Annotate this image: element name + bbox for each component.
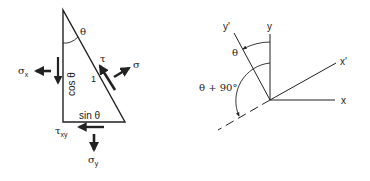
theta-arc [63,37,78,43]
sigma-label: σ [133,59,140,70]
x-prime-axis-label: x' [340,56,347,67]
hypotenuse-label: 1 [91,74,96,84]
triangle-element [63,10,125,122]
y-prime-axis-label: y' [223,21,230,32]
stress-transformation-figure: θ σx cos θ 1 τ σ sin θ τxy σy y x [0,0,370,181]
theta-plus-90-label: θ + 90° [199,82,237,93]
rotated-axes-diagram: y x x' y' θ θ + 90° [199,21,347,130]
stress-triangle-diagram: θ σx cos θ 1 τ σ sin θ τxy σy [18,10,140,168]
tau-arrow [100,66,115,90]
theta-label: θ [80,26,86,37]
cos-theta-label: cos θ [66,72,77,96]
sin-theta-label: sin θ [79,110,101,121]
tau-xy-label: τxy [55,125,68,139]
y-prime-axis [234,33,270,100]
theta-angle-label: θ [232,47,238,58]
sigma-normal-arrow [114,68,129,77]
x-axis-label: x [341,95,346,106]
theta-arc [243,42,270,49]
y-axis-label: y [267,21,272,32]
x-prime-axis [270,63,336,100]
sigma-y-label: σy [88,154,99,168]
negative-x-prime-dashed [218,100,270,130]
tau-label: τ [100,53,106,64]
sigma-x-label: σx [18,65,29,78]
